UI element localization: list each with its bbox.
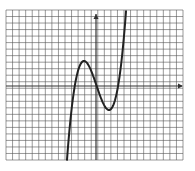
grid-lines [6, 10, 183, 160]
function-graph [0, 0, 195, 171]
x-axis-arrow-icon [178, 84, 183, 89]
